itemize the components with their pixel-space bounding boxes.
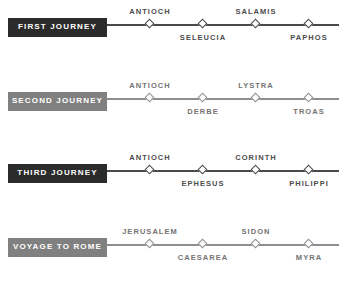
diamond-marker-icon: [197, 238, 207, 248]
journey-stop-label: PHILIPPI: [289, 180, 329, 188]
diamond-marker-icon: [144, 18, 154, 28]
journey-stop-label: JERUSALEM: [122, 228, 178, 236]
diamond-marker-icon: [197, 92, 207, 102]
journey-stop-label: ANTIOCH: [129, 82, 171, 90]
diamond-marker-icon: [303, 238, 313, 248]
journey-stop-label: PAPHOS: [290, 34, 327, 42]
diamond-marker-icon: [197, 164, 207, 174]
diamond-marker-icon: [250, 238, 260, 248]
diamond-marker-icon: [144, 164, 154, 174]
journey-stop-label: TROAS: [293, 108, 325, 116]
journey-stop-label: CORINTH: [235, 154, 277, 162]
journey-stop-label: SELEUCIA: [180, 34, 226, 42]
diamond-marker-icon: [144, 92, 154, 102]
journey-badge-label: VOYAGE TO ROME: [13, 243, 102, 251]
journey-stop-label: DERBE: [187, 108, 219, 116]
journey-badge[interactable]: SECOND JOURNEY: [8, 92, 107, 111]
journey-badge-label: SECOND JOURNEY: [12, 97, 103, 105]
diamond-marker-icon: [197, 18, 207, 28]
journey-badge[interactable]: FIRST JOURNEY: [8, 18, 107, 37]
diamond-marker-icon: [144, 238, 154, 248]
diamond-marker-icon: [250, 92, 260, 102]
journey-row: VOYAGE TO ROMEJERUSALEMCAESAREASIDONMYRA: [0, 220, 333, 294]
journey-row: THIRD JOURNEYANTIOCHEPHESUSCORINTHPHILIP…: [0, 146, 333, 220]
diamond-marker-icon: [250, 164, 260, 174]
diamond-marker-icon: [303, 164, 313, 174]
diamond-marker-icon: [303, 18, 313, 28]
journey-stop-label: MYRA: [296, 254, 322, 262]
journey-badge[interactable]: THIRD JOURNEY: [8, 164, 107, 183]
journey-stop-label: ANTIOCH: [129, 8, 171, 16]
journey-stop-label: SIDON: [241, 228, 270, 236]
journey-badge-label: THIRD JOURNEY: [17, 169, 97, 177]
diamond-marker-icon: [250, 18, 260, 28]
journey-stop-label: ANTIOCH: [129, 154, 171, 162]
journey-row: FIRST JOURNEYANTIOCHSELEUCIASALAMISPAPHO…: [0, 0, 333, 74]
journey-stop-label: SALAMIS: [235, 8, 276, 16]
journey-row: SECOND JOURNEYANTIOCHDERBELYSTRATROAS: [0, 74, 333, 148]
journey-badge[interactable]: VOYAGE TO ROME: [8, 238, 107, 257]
journey-stop-label: CAESAREA: [178, 254, 229, 262]
journey-stop-label: EPHESUS: [181, 180, 224, 188]
diamond-marker-icon: [303, 92, 313, 102]
journey-stop-label: LYSTRA: [238, 82, 274, 90]
journey-badge-label: FIRST JOURNEY: [18, 23, 97, 31]
